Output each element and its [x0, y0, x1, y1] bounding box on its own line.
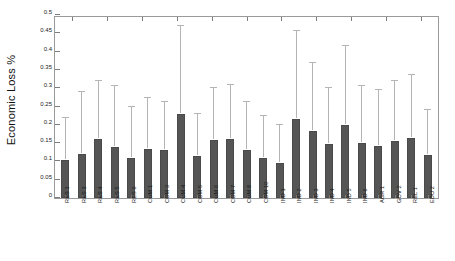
bar-slot	[172, 17, 188, 198]
error-bar	[263, 115, 264, 157]
bar-slot	[321, 17, 337, 198]
y-axis-tick-label: 0.2	[44, 119, 52, 125]
error-bar	[279, 124, 280, 162]
plot-area: 00.050.10.150.20.250.30.350.40.450.5	[54, 16, 439, 199]
bar-slot	[156, 17, 172, 198]
bar-slot	[189, 17, 205, 198]
error-bar	[197, 113, 198, 155]
x-axis-label: AGR 1	[379, 186, 385, 203]
error-bar	[81, 91, 82, 153]
y-axis-tick-label: 0.45	[40, 27, 52, 33]
x-axis-label-slot: IND 4	[321, 201, 338, 259]
bar-slot	[403, 17, 419, 198]
y-axis-tick-label: 0.3	[44, 82, 52, 88]
error-bar	[230, 84, 231, 138]
bar-slot	[370, 17, 386, 198]
y-axis-tick-label: 0.05	[40, 174, 52, 180]
y-axis-tick-label: 0.35	[40, 64, 52, 70]
y-axis-tick-label: 0.15	[40, 137, 52, 143]
x-axis-label: IND 3	[313, 188, 319, 203]
bar-slot	[420, 17, 436, 198]
y-axis-tick-label: 0.5	[44, 9, 52, 15]
x-axis-label: EDU 2	[429, 186, 435, 203]
x-axis-label-slot: IND 3	[304, 201, 321, 259]
x-axis-label-slot: COM 6	[205, 201, 222, 259]
bar[interactable]	[341, 125, 349, 198]
bar-slot	[90, 17, 106, 198]
x-axis-label: COM 7	[230, 185, 236, 203]
bar-slot	[139, 17, 155, 198]
x-axis-label: RES 6	[131, 186, 137, 203]
x-axis-label: RES 3	[81, 186, 87, 203]
error-bar	[427, 109, 428, 154]
x-axis-label: IND 6	[362, 188, 368, 203]
x-axis-label-slot: REL 1	[404, 201, 421, 259]
x-axis-label-slot: RES 5	[106, 201, 123, 259]
bar[interactable]	[292, 119, 300, 198]
x-axis-label: COM 8	[246, 185, 252, 203]
error-bar	[246, 101, 247, 149]
error-bar	[361, 85, 362, 142]
x-axis-label-slot: RES 1	[56, 201, 73, 259]
x-axis-label-slot: AGR 1	[371, 201, 388, 259]
x-axis-label: RES 5	[114, 186, 120, 203]
bar-slot	[271, 17, 287, 198]
bar-slot	[205, 17, 221, 198]
x-axis-label: COM 4	[180, 185, 186, 203]
x-axis-label-slot: IND 2	[288, 201, 305, 259]
bar-slot	[387, 17, 403, 198]
x-axis-label-slot: COM 4	[172, 201, 189, 259]
bar-slot	[255, 17, 271, 198]
economic-loss-bar-chart: Economic Loss % 00.050.10.150.20.250.30.…	[0, 0, 455, 261]
bar-slot	[222, 17, 238, 198]
x-axis-label-slot: COM 3	[155, 201, 172, 259]
x-axis-label-slot: COM 5	[189, 201, 206, 259]
error-bar	[213, 87, 214, 139]
y-axis-tick-label: 0.1	[44, 155, 52, 161]
x-axis-label-slot: COM 7	[222, 201, 239, 259]
bar-slot	[304, 17, 320, 198]
error-bar	[180, 25, 181, 113]
y-axis-title-text: Economic Loss %	[5, 55, 17, 145]
error-bar	[378, 89, 379, 145]
x-axis-label: IND 2	[296, 188, 302, 203]
x-axis-label: IND 4	[329, 188, 335, 203]
error-bar	[147, 97, 148, 147]
x-axis-label-slot: RES 3	[73, 201, 90, 259]
bar-series	[55, 17, 438, 198]
bar-slot	[57, 17, 73, 198]
y-axis-tick: 0.5	[55, 14, 60, 15]
x-axis-label-slot: IND 6	[354, 201, 371, 259]
x-axis-label: RES 4	[97, 186, 103, 203]
x-axis-label-slot: RES 6	[122, 201, 139, 259]
x-axis-label: COM 10	[263, 182, 269, 203]
x-axis-label: COM 1	[147, 185, 153, 203]
error-bar	[345, 45, 346, 124]
x-axis-label-slot: IND 1	[271, 201, 288, 259]
x-axis-label-slot: EDU 2	[420, 201, 437, 259]
y-axis-tick-label: 0	[49, 192, 52, 198]
error-bar	[131, 106, 132, 157]
x-axis-label-slot: IND 5	[338, 201, 355, 259]
x-axis-label-slot: COM 10	[255, 201, 272, 259]
error-bar	[296, 30, 297, 118]
y-axis-tick-label: 0.4	[44, 46, 52, 52]
x-axis-label-slot: GOV 2	[387, 201, 404, 259]
bar-slot	[73, 17, 89, 198]
bar-slot	[337, 17, 353, 198]
error-bar	[65, 117, 66, 159]
x-axis-label-slot: COM 1	[139, 201, 156, 259]
error-bar	[98, 80, 99, 139]
x-axis-label: IND 5	[346, 188, 352, 203]
bar-slot	[123, 17, 139, 198]
x-axis-label: RES 1	[64, 186, 70, 203]
error-bar	[328, 87, 329, 143]
error-bar	[312, 62, 313, 131]
x-axis-label: GOV 2	[396, 185, 402, 203]
bar-slot	[106, 17, 122, 198]
x-axis-label: COM 3	[164, 185, 170, 203]
bar-slot	[354, 17, 370, 198]
x-axis-label: IND 1	[280, 188, 286, 203]
x-axis-label: COM 5	[197, 185, 203, 203]
error-bar	[164, 101, 165, 149]
